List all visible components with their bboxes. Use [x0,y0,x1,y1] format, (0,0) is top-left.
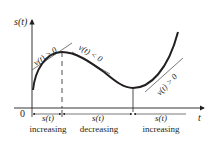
interval-3-function: s(t) [155,113,167,123]
tangent-label-negative: v(t) < 0 [77,42,105,64]
y-axis-label: s(t) [14,16,28,28]
interval-1-behavior: increasing [30,124,67,134]
interval-3-behavior: increasing [143,124,180,134]
tangent-label-positive: v(t) > 0 [32,44,60,67]
position-velocity-diagram: s(t) t 0 v(t) > 0 v(t) < 0 v(t) > 0 s(t)… [0,0,214,145]
interval-2-function: s(t) [92,113,104,123]
origin-label: 0 [20,108,25,119]
interval-1-function: s(t) [42,113,54,123]
interval-2-behavior: decreasing [80,124,119,134]
position-curve [33,32,178,90]
x-axis-label: t [198,112,201,123]
